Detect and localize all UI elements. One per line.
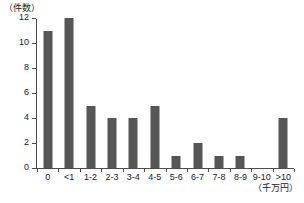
x-axis-category-label: 0 <box>37 172 58 183</box>
bar <box>107 118 116 168</box>
y-axis-tick: 10 <box>32 43 36 44</box>
y-axis-tick: 2 <box>32 143 36 144</box>
bar-slot <box>58 19 79 168</box>
bar-slot <box>251 19 272 168</box>
y-axis-tick: 0 <box>32 168 36 169</box>
bar-slot <box>37 19 58 168</box>
y-axis-tick: 8 <box>32 68 36 69</box>
bars-layer <box>37 19 294 168</box>
bar-slot <box>273 19 294 168</box>
bar <box>193 143 202 168</box>
bar <box>86 106 95 169</box>
bar <box>172 156 181 169</box>
x-axis-category-label: 4-5 <box>144 172 165 183</box>
x-axis-category-label: 1-2 <box>80 172 101 183</box>
y-axis-tick-label: 10 <box>19 37 29 48</box>
y-axis-tick-label: 0 <box>24 162 29 173</box>
bar <box>150 106 159 169</box>
x-axis-category-label: <1 <box>58 172 79 183</box>
y-axis-tick-label: 12 <box>19 12 29 23</box>
bar <box>236 156 245 169</box>
bar-slot <box>208 19 229 168</box>
bar-chart: （件数） 024681012 0<11-22-33-44-55-66-77-88… <box>0 0 304 203</box>
bar-slot <box>101 19 122 168</box>
bar-slot <box>123 19 144 168</box>
y-axis-tick: 12 <box>32 18 36 19</box>
x-axis-unit-label: （千万円） <box>253 183 298 194</box>
x-axis-tick <box>294 169 295 172</box>
bar <box>65 18 74 168</box>
bar-slot <box>187 19 208 168</box>
bar <box>43 31 52 169</box>
x-axis-category-label: 8-9 <box>230 172 251 183</box>
y-axis-tick-label: 8 <box>24 62 29 73</box>
x-axis-category-label: >10 <box>273 172 294 183</box>
bar <box>129 118 138 168</box>
bar <box>215 156 224 169</box>
y-axis-tick: 4 <box>32 118 36 119</box>
x-axis-category-label: 6-7 <box>187 172 208 183</box>
y-axis-tick: 6 <box>32 93 36 94</box>
x-axis-category-label: 2-3 <box>101 172 122 183</box>
bar-slot <box>80 19 101 168</box>
x-axis-category-label: 9-10 <box>251 172 272 183</box>
x-axis-category-label: 3-4 <box>123 172 144 183</box>
y-axis-tick-label: 2 <box>24 137 29 148</box>
bar-slot <box>166 19 187 168</box>
bar-slot <box>230 19 251 168</box>
plot-area: 024681012 0<11-22-33-44-55-66-77-88-99-1… <box>36 19 294 169</box>
y-axis-tick-label: 6 <box>24 87 29 98</box>
y-axis-tick-label: 4 <box>24 112 29 123</box>
bar <box>279 118 288 168</box>
x-axis-category-label: 7-8 <box>208 172 229 183</box>
bar-slot <box>144 19 165 168</box>
x-axis-category-label: 5-6 <box>166 172 187 183</box>
